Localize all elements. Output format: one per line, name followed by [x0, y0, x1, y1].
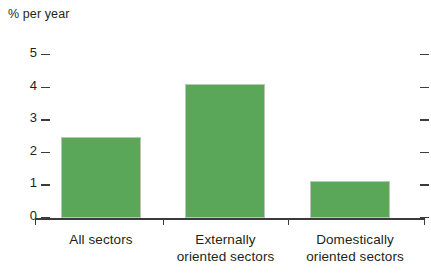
- bar-chart: % per year 5 4 3 2 1 0: [0, 0, 431, 273]
- y-tick-mark-right-5: [420, 54, 429, 55]
- y-tick-mark-right-2: [420, 152, 429, 153]
- y-tick-mark-5: [41, 54, 50, 55]
- bar-externally-oriented-sectors: [185, 84, 265, 218]
- x-axis-separator-tick-2: [288, 218, 289, 225]
- bar-all-sectors: [61, 137, 141, 219]
- x-axis-separator-tick-0: [35, 218, 36, 225]
- x-axis-label-externally-oriented-sectors: Externally oriented sectors: [163, 231, 288, 265]
- x-axis-separator-tick-3: [424, 218, 425, 225]
- x-axis-separator-tick-1: [163, 218, 164, 225]
- y-tick-mark-2: [41, 152, 50, 153]
- y-tick-mark-3: [41, 119, 50, 120]
- y-tick-label-3: 3: [30, 111, 37, 124]
- y-tick-label-2: 2: [30, 144, 37, 157]
- x-axis-label-all-sectors: All sectors: [41, 231, 161, 248]
- y-tick-mark-right-4: [420, 87, 429, 88]
- y-tick-label-1: 1: [30, 176, 37, 189]
- plot-area: 5 4 3 2 1 0: [0, 0, 431, 273]
- bar-domestically-oriented-sectors: [310, 181, 390, 218]
- y-tick-mark-right-3: [420, 119, 429, 120]
- x-axis-baseline: [35, 218, 425, 220]
- y-tick-mark-right-1: [420, 184, 429, 185]
- y-tick-mark-1: [41, 184, 50, 185]
- y-tick-label-4: 4: [30, 79, 37, 92]
- x-axis-label-domestically-oriented-sectors: Domestically oriented sectors: [289, 231, 421, 265]
- y-tick-label-5: 5: [30, 46, 37, 59]
- y-tick-mark-4: [41, 87, 50, 88]
